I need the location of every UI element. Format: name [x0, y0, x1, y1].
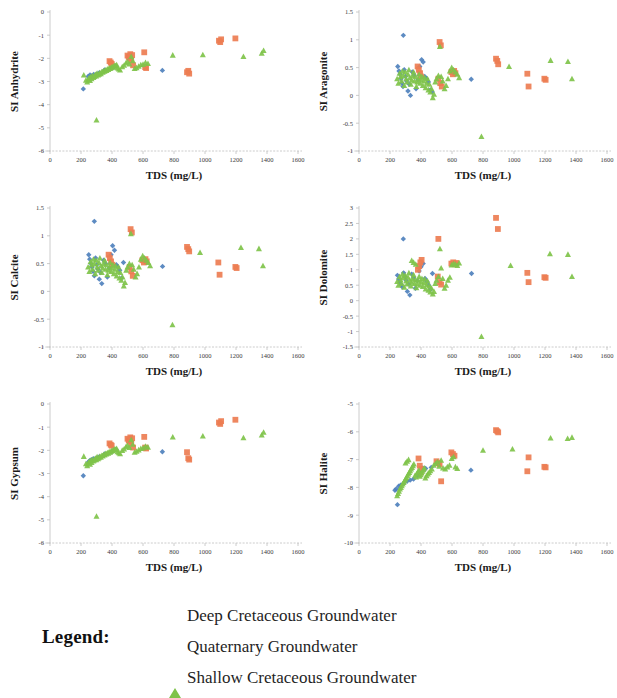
y-tick-label: -6	[39, 147, 45, 154]
y-tick-label: 2.5	[345, 220, 353, 227]
x-tick-label: 800	[169, 548, 179, 555]
data-point-square	[416, 456, 422, 462]
y-tick-label: -10	[344, 539, 353, 546]
data-point-square	[495, 226, 501, 232]
data-point-triangle	[81, 453, 87, 459]
data-point-square	[186, 71, 192, 77]
data-point-triangle	[200, 52, 206, 58]
data-point-diamond	[81, 86, 86, 91]
x-tick-label: 1400	[261, 352, 274, 359]
data-point-square	[543, 77, 549, 83]
y-tick-label: 1	[350, 266, 353, 273]
chart-grid: 020040060080010001200140016000-1-2-3-4-5…	[0, 0, 617, 588]
data-point-square	[232, 36, 238, 42]
y-axis-title: SI Gypsum	[8, 447, 20, 500]
data-point-triangle	[569, 434, 575, 440]
x-tick-label: 400	[107, 352, 117, 359]
x-tick-label: 400	[416, 352, 426, 359]
x-tick-label: 200	[76, 352, 86, 359]
x-tick-label: 1000	[199, 156, 212, 163]
data-point-square	[438, 478, 444, 484]
data-point-diamond	[468, 467, 473, 472]
y-tick-label: 1	[41, 232, 44, 239]
x-tick-label: 0	[48, 156, 51, 163]
data-point-triangle	[406, 67, 412, 73]
data-point-diamond	[121, 260, 126, 265]
legend-row: Quaternary Groundwater	[168, 631, 416, 662]
legend: Legend: Deep Cretaceous Groundwater Quat…	[0, 596, 617, 697]
data-point-triangle	[240, 435, 246, 441]
data-point-square	[493, 215, 499, 221]
x-tick-label: 1000	[199, 548, 212, 555]
x-tick-label: 200	[76, 156, 86, 163]
y-tick-label: -0.5	[343, 120, 353, 127]
series-diamond	[395, 33, 474, 98]
data-point-triangle	[94, 117, 100, 123]
data-point-triangle	[548, 57, 554, 63]
data-point-triangle	[509, 446, 515, 452]
data-point-diamond	[405, 88, 410, 93]
x-tick-label: 200	[385, 352, 395, 359]
y-tick-label: 2	[350, 235, 353, 242]
x-tick-label: 1600	[601, 352, 614, 359]
y-tick-label: -8	[348, 484, 353, 491]
x-tick-label: 1000	[508, 156, 521, 163]
data-point-triangle	[480, 447, 486, 453]
data-point-triangle	[447, 274, 453, 280]
y-tick-label: 1.5	[36, 204, 44, 211]
data-point-diamond	[469, 271, 474, 276]
chart-svg-si-halite: 02004006008001000120014001600-5-6-7-8-9-…	[309, 392, 617, 588]
x-tick-label: 800	[169, 352, 179, 359]
y-axis-title: SI Calcite	[8, 254, 20, 300]
chart-svg-si-dolomite: 0200400600800100012001400160032.521.510.…	[309, 196, 617, 392]
data-point-triangle	[565, 251, 571, 257]
diamond-marker-icon	[168, 609, 182, 623]
data-point-triangle	[411, 461, 417, 467]
y-tick-label: -6	[39, 539, 45, 546]
x-tick-label: 600	[447, 352, 457, 359]
data-point-triangle	[81, 72, 87, 78]
x-axis-title: TDS (mg/L)	[455, 561, 512, 574]
data-point-triangle	[508, 262, 514, 268]
data-point-square	[234, 265, 240, 271]
y-tick-label: 0	[41, 400, 44, 407]
y-tick-label: -3	[39, 78, 44, 85]
data-point-square	[186, 248, 192, 254]
data-point-square	[526, 279, 532, 285]
x-tick-label: 1400	[261, 548, 274, 555]
data-point-square	[543, 464, 549, 470]
data-point-diamond	[92, 219, 97, 224]
x-tick-label: 400	[416, 548, 426, 555]
chart-svg-si-calcite: 020040060080010001200140016001.510.50-0.…	[0, 196, 309, 392]
chart-panel-si-gypsum: 020040060080010001200140016000-1-2-3-4-5…	[0, 392, 309, 588]
data-point-diamond	[160, 449, 165, 454]
data-point-triangle	[261, 47, 267, 53]
x-tick-label: 800	[169, 156, 179, 163]
x-tick-label: 800	[478, 156, 488, 163]
legend-item-label: Shallow Cretaceous Groundwater	[187, 668, 416, 688]
y-tick-label: 1.5	[345, 251, 353, 258]
y-tick-label: 0	[350, 92, 353, 99]
y-tick-label: -1	[348, 147, 353, 154]
x-tick-label: 200	[385, 548, 395, 555]
data-point-square	[232, 417, 238, 423]
x-tick-label: 400	[416, 156, 426, 163]
y-tick-label: 0	[350, 297, 353, 304]
y-tick-label: 0	[41, 8, 44, 15]
legend-title: Legend:	[42, 626, 110, 648]
y-tick-label: -0.5	[34, 316, 44, 323]
y-tick-label: -5	[39, 124, 44, 131]
y-tick-label: -2	[39, 55, 44, 62]
y-tick-label: -2	[39, 447, 44, 454]
data-point-triangle	[170, 434, 176, 440]
x-tick-label: 1400	[570, 156, 583, 163]
x-tick-label: 1400	[570, 352, 583, 359]
data-point-triangle	[478, 333, 484, 339]
data-point-square	[184, 449, 190, 455]
data-point-diamond	[160, 264, 165, 269]
data-point-square	[217, 272, 223, 278]
x-tick-label: 800	[478, 352, 488, 359]
data-point-triangle	[478, 134, 484, 140]
data-point-triangle	[438, 265, 444, 271]
